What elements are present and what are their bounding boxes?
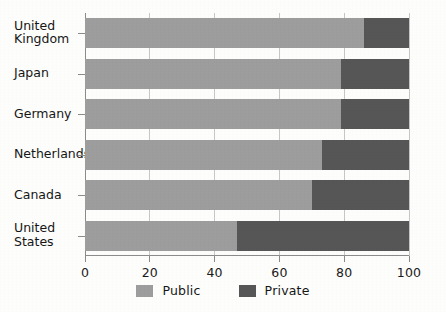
bar-row bbox=[85, 59, 409, 89]
axis-frame bbox=[85, 13, 409, 256]
x-axis-tick-label: 80 bbox=[336, 265, 352, 280]
bar-segment-private bbox=[312, 180, 409, 210]
category-label-wrap: Japan bbox=[14, 66, 78, 80]
category-tick bbox=[78, 236, 85, 237]
x-axis-tick bbox=[409, 256, 410, 262]
category-label: United States bbox=[14, 221, 78, 248]
category-label-wrap: United States bbox=[14, 221, 78, 248]
bar-row bbox=[85, 18, 409, 48]
category-label-wrap: Netherlands bbox=[14, 147, 78, 161]
gridline bbox=[149, 13, 150, 256]
x-axis-tick bbox=[344, 256, 345, 262]
category-label-wrap: United Kingdom bbox=[14, 19, 78, 46]
category-tick bbox=[78, 155, 85, 156]
bar-row bbox=[85, 140, 409, 170]
legend-swatch-public bbox=[136, 285, 153, 297]
category-tick bbox=[78, 74, 85, 75]
bar-segment-public bbox=[85, 221, 237, 251]
bar-segment-public bbox=[85, 140, 322, 170]
category-tick bbox=[78, 33, 85, 34]
legend-item-private[interactable]: Private bbox=[239, 283, 310, 298]
category-label: Germany bbox=[14, 107, 78, 121]
bar-segment-private bbox=[322, 140, 409, 170]
category-label: Japan bbox=[14, 66, 78, 80]
chart-legend: PublicPrivate bbox=[0, 283, 446, 298]
bar-segment-private bbox=[364, 18, 409, 48]
gridline bbox=[344, 13, 345, 256]
gridline bbox=[279, 13, 280, 256]
bar-row bbox=[85, 221, 409, 251]
legend-label: Public bbox=[162, 283, 200, 298]
x-axis-tick bbox=[149, 256, 150, 262]
legend-item-public[interactable]: Public bbox=[136, 283, 200, 298]
category-tick bbox=[78, 195, 85, 196]
x-axis-tick-label: 20 bbox=[142, 265, 158, 280]
category-label: Netherlands bbox=[14, 147, 78, 161]
bar-row bbox=[85, 180, 409, 210]
x-axis-tick-label: 60 bbox=[271, 265, 287, 280]
x-axis-tick-label: 100 bbox=[397, 265, 421, 280]
x-axis-tick bbox=[214, 256, 215, 262]
plot-area: 020406080100 bbox=[85, 13, 409, 256]
bar-segment-public bbox=[85, 180, 312, 210]
bar-segment-private bbox=[341, 59, 409, 89]
category-label: Canada bbox=[14, 188, 78, 202]
legend-swatch-private bbox=[239, 285, 256, 297]
legend-label: Private bbox=[265, 283, 310, 298]
bar-segment-public bbox=[85, 59, 341, 89]
category-label-wrap: Germany bbox=[14, 107, 78, 121]
bar-segment-public bbox=[85, 18, 364, 48]
x-axis-tick bbox=[85, 256, 86, 262]
category-label-wrap: Canada bbox=[14, 188, 78, 202]
bar-row bbox=[85, 99, 409, 129]
gridline bbox=[409, 13, 410, 256]
stacked-bar-chart: United KingdomJapanGermanyNetherlandsCan… bbox=[0, 0, 446, 312]
x-axis-tick-label: 40 bbox=[206, 265, 222, 280]
bar-segment-private bbox=[237, 221, 409, 251]
category-tick bbox=[78, 114, 85, 115]
gridline bbox=[214, 13, 215, 256]
category-label: United Kingdom bbox=[14, 19, 78, 46]
x-axis-tick bbox=[279, 256, 280, 262]
legend-spacer bbox=[201, 290, 239, 291]
x-axis-tick-label: 0 bbox=[81, 265, 89, 280]
bar-segment-private bbox=[341, 99, 409, 129]
bar-segment-public bbox=[85, 99, 341, 129]
